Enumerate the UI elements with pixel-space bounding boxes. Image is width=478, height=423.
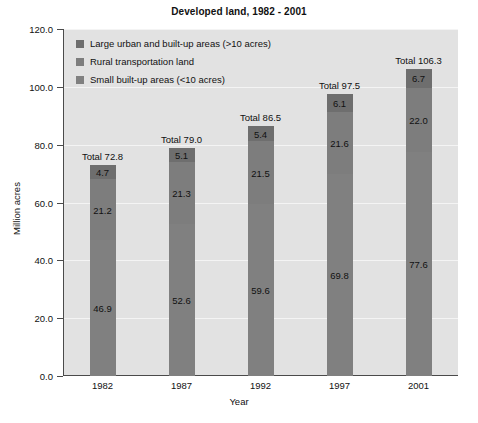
bar-segment-value-label: 5.1 <box>160 149 204 160</box>
bar-segment[interactable]: 22.0 <box>406 88 432 152</box>
bar-segment[interactable]: 77.6 <box>406 152 432 376</box>
y-axis-tick-mark <box>57 260 63 261</box>
bar-segment-value-label: 21.2 <box>81 204 125 215</box>
bar-segment[interactable]: 21.5 <box>248 141 274 203</box>
bar-total-label: Total 72.8 <box>61 151 145 162</box>
bar-segment[interactable]: 21.2 <box>90 179 116 240</box>
y-axis-tick-mark <box>57 376 63 377</box>
bar-segment-value-label: 77.6 <box>397 258 441 269</box>
bar-segment[interactable]: 6.1 <box>327 94 353 112</box>
bar-total-label: Total 86.5 <box>219 112 303 123</box>
bar-stack[interactable]: 69.821.66.1Total 97.5 <box>327 29 353 376</box>
y-axis-tick-label: 40.0 <box>11 255 53 266</box>
bar-segment-value-label: 59.6 <box>239 284 283 295</box>
bar-segment-value-label: 52.6 <box>160 294 204 305</box>
bar-total-label: Total 79.0 <box>140 134 224 145</box>
x-axis-tick-label: 1997 <box>310 380 370 391</box>
bar-segment-value-label: 6.1 <box>318 97 362 108</box>
legend-swatch-icon <box>76 76 84 84</box>
bar-segment[interactable]: 5.4 <box>248 126 274 142</box>
bar-segment-value-label: 6.7 <box>397 73 441 84</box>
y-axis-label: Million acres <box>11 169 22 249</box>
bar-segment-value-label: 21.6 <box>318 137 362 148</box>
bar-segment[interactable]: 21.3 <box>169 162 195 224</box>
y-axis-ticks: 0.020.040.060.080.0100.0120.0 <box>0 0 53 423</box>
bar-stack[interactable]: 46.921.24.7Total 72.8 <box>90 29 116 376</box>
y-axis-tick-mark <box>57 318 63 319</box>
bar-total-label: Total 97.5 <box>298 80 382 91</box>
bar-total-label: Total 106.3 <box>377 55 461 66</box>
bar-segment-value-label: 4.7 <box>81 167 125 178</box>
y-axis-tick-label: 80.0 <box>11 139 53 150</box>
y-axis-tick-label: 100.0 <box>11 81 53 92</box>
chart-title: Developed land, 1982 - 2001 <box>0 6 478 17</box>
bar-segment-value-label: 21.3 <box>160 188 204 199</box>
stacked-bar-chart: Developed land, 1982 - 2001 0.020.040.06… <box>0 0 478 423</box>
x-axis-label: Year <box>0 396 478 407</box>
bar-segment-value-label: 46.9 <box>81 303 125 314</box>
bar-segment[interactable]: 4.7 <box>90 165 116 179</box>
y-axis-tick-label: 0.0 <box>11 371 53 382</box>
y-axis-tick-mark <box>57 87 63 88</box>
x-axis-tick-label: 1987 <box>152 380 212 391</box>
bar-segment[interactable]: 59.6 <box>248 204 274 376</box>
bar-segment[interactable]: 5.1 <box>169 148 195 163</box>
y-axis-tick-mark <box>57 29 63 30</box>
bar-stack[interactable]: 77.622.06.7Total 106.3 <box>406 29 432 376</box>
bar-segment-value-label: 5.4 <box>239 128 283 139</box>
y-axis-tick-label: 120.0 <box>11 24 53 35</box>
bar-segment-value-label: 21.5 <box>239 167 283 178</box>
y-axis-tick-mark <box>57 145 63 146</box>
bar-segment[interactable]: 6.7 <box>406 69 432 88</box>
bar-segment-value-label: 22.0 <box>397 114 441 125</box>
bar-segment-value-label: 69.8 <box>318 270 362 281</box>
legend-swatch-icon <box>76 40 84 48</box>
bar-stack[interactable]: 59.621.55.4Total 86.5 <box>248 29 274 376</box>
bar-stack[interactable]: 52.621.35.1Total 79.0 <box>169 29 195 376</box>
bar-segment[interactable]: 52.6 <box>169 224 195 376</box>
x-axis-tick-label: 1982 <box>73 380 133 391</box>
y-axis-tick-mark <box>57 203 63 204</box>
legend-swatch-icon <box>76 58 84 66</box>
bar-segment[interactable]: 69.8 <box>327 174 353 376</box>
y-axis-tick-label: 20.0 <box>11 313 53 324</box>
bar-segment[interactable]: 46.9 <box>90 240 116 376</box>
bar-segment[interactable]: 21.6 <box>327 112 353 174</box>
x-axis-tick-label: 1992 <box>231 380 291 391</box>
x-axis-tick-label: 2001 <box>389 380 449 391</box>
